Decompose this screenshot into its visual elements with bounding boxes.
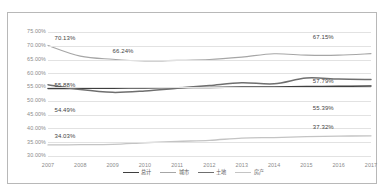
y-axis-tick-label: 40.00% <box>12 126 46 131</box>
data-label: 54.49% <box>54 107 75 113</box>
gridline <box>48 73 371 74</box>
y-axis-tick-label: 55.00% <box>12 84 46 89</box>
plot-area <box>48 32 371 156</box>
legend-item[interactable]: 总计 <box>123 170 152 175</box>
data-label: 57.79% <box>313 78 334 84</box>
y-axis-tick-label: 65.00% <box>12 57 46 62</box>
y-axis-tick-label: 70.00% <box>12 43 46 48</box>
legend-swatch-icon <box>198 172 214 173</box>
chart-container: 75.00%70.00%65.00%60.00%55.00%50.00%45.0… <box>7 12 377 184</box>
line-series-group <box>48 32 371 156</box>
y-axis-tick-label: 60.00% <box>12 71 46 76</box>
gridline <box>48 156 371 157</box>
legend-label: 城市 <box>179 170 189 175</box>
y-axis-tick-label: 75.00% <box>12 29 46 34</box>
legend-label: 总计 <box>141 170 151 175</box>
data-label: 67.15% <box>313 34 334 40</box>
chart-legend: 总计城市土地房产 <box>8 165 378 181</box>
gridline <box>48 32 371 33</box>
data-label: 70.13% <box>54 35 75 41</box>
legend-swatch-icon <box>160 172 176 173</box>
legend-swatch-icon <box>123 172 139 173</box>
data-label: 55.88% <box>54 82 75 88</box>
y-axis-tick-label: 45.00% <box>12 112 46 117</box>
gridline <box>48 60 371 61</box>
y-axis: 75.00%70.00%65.00%60.00%55.00%50.00%45.0… <box>10 32 46 156</box>
gridline <box>48 115 371 116</box>
legend-label: 土地 <box>216 170 226 175</box>
data-label: 55.39% <box>313 105 334 111</box>
gridline <box>48 142 371 143</box>
legend-item[interactable]: 房产 <box>235 170 264 175</box>
data-label: 37.32% <box>313 124 334 130</box>
legend-item[interactable]: 土地 <box>198 170 227 175</box>
data-label: 66.24% <box>113 48 134 54</box>
y-axis-tick-label: 50.00% <box>12 98 46 103</box>
y-axis-tick-label: 35.00% <box>12 140 46 145</box>
gridline <box>48 87 371 88</box>
legend-label: 房产 <box>254 170 264 175</box>
data-label: 34.03% <box>54 133 75 139</box>
y-axis-tick-label: 30.00% <box>12 153 46 158</box>
gridline <box>48 46 371 47</box>
gridline <box>48 101 371 102</box>
series-line <box>48 136 371 145</box>
legend-item[interactable]: 城市 <box>160 170 189 175</box>
legend-swatch-icon <box>235 172 251 173</box>
